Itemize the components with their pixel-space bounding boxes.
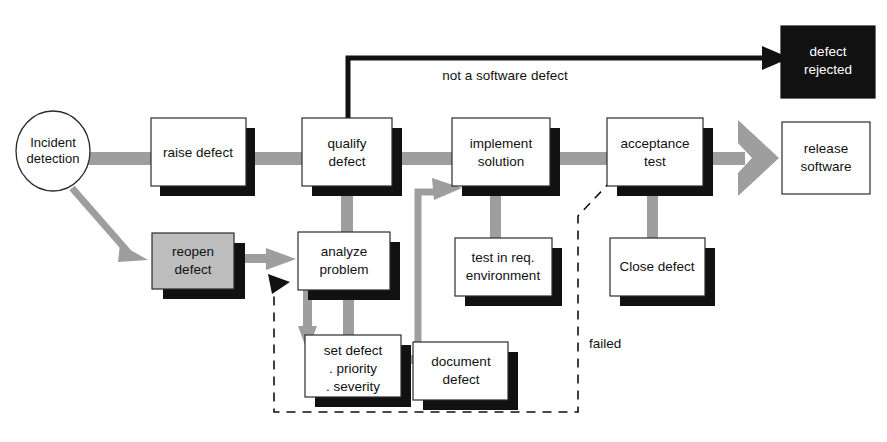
node-label: Incident xyxy=(30,135,76,150)
node-incident-detection[interactable]: Incident detection xyxy=(16,111,90,191)
node-label: . severity xyxy=(326,379,380,394)
node-label: defect xyxy=(329,154,366,169)
node-label: analyze xyxy=(321,244,368,259)
node-label: solution xyxy=(478,154,525,169)
node-label: software xyxy=(800,159,851,174)
node-implement-solution[interactable]: implement solution xyxy=(452,118,560,196)
edge-not-a-software-defect xyxy=(348,46,790,118)
node-label: defect xyxy=(175,262,212,277)
edge-incident-to-reopen xyxy=(72,188,148,262)
node-label: raise defect xyxy=(163,145,233,160)
node-qualify-defect[interactable]: qualify defect xyxy=(302,118,402,196)
node-label: Close defect xyxy=(619,259,694,274)
node-label: problem xyxy=(320,262,369,277)
node-label: defect xyxy=(810,44,847,59)
node-label: implement xyxy=(470,136,533,151)
node-release-software[interactable]: release software xyxy=(782,122,870,194)
diagram-canvas: Incident detection raise defect qualify … xyxy=(0,0,887,442)
node-document-defect[interactable]: document defect xyxy=(413,342,518,410)
node-reopen-defect[interactable]: reopen defect xyxy=(152,233,245,299)
node-label: detection xyxy=(27,151,80,166)
node-label: rejected xyxy=(804,62,852,77)
node-label: test in req. xyxy=(471,250,534,265)
node-label: acceptance xyxy=(620,136,689,151)
node-label: test xyxy=(644,154,666,169)
node-label: set defect xyxy=(324,343,383,358)
edge-label-failed: failed xyxy=(589,336,621,351)
node-raise-defect[interactable]: raise defect xyxy=(151,118,255,196)
node-analyze-problem[interactable]: analyze problem xyxy=(298,232,400,300)
node-label: document xyxy=(431,354,491,369)
edge-label-not-a-software-defect: not a software defect xyxy=(442,68,568,83)
node-defect-rejected[interactable]: defect rejected xyxy=(781,26,875,98)
node-label: qualify xyxy=(327,136,366,151)
node-label: release xyxy=(804,141,848,156)
node-label: environment xyxy=(466,268,541,283)
node-label: defect xyxy=(443,372,480,387)
node-set-defect[interactable]: set defect . priority . severity xyxy=(305,335,411,407)
node-label: reopen xyxy=(172,244,214,259)
node-close-defect[interactable]: Close defect xyxy=(610,238,715,306)
node-test-in-req-environment[interactable]: test in req. environment xyxy=(455,238,562,306)
node-label: . priority xyxy=(329,361,377,376)
node-acceptance-test[interactable]: acceptance test xyxy=(607,118,713,196)
